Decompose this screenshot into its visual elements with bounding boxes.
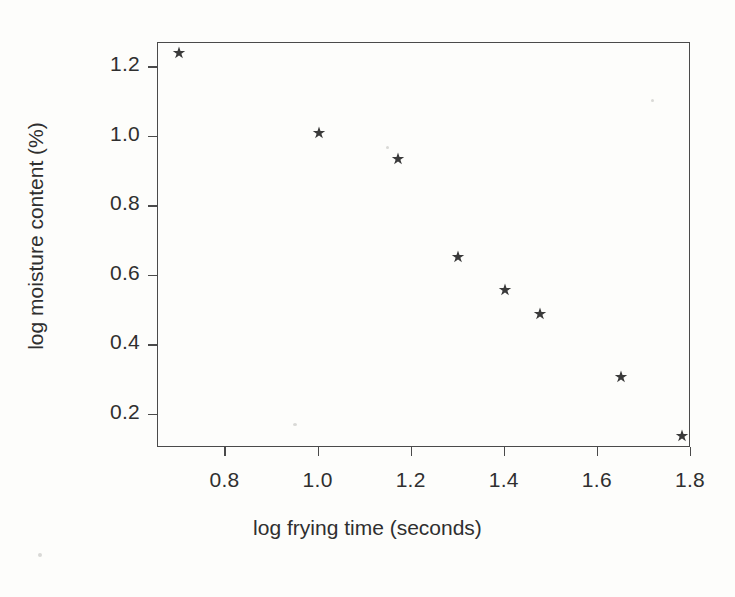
plot-area (157, 42, 690, 447)
y-tick-label: 0.8 (52, 191, 140, 215)
y-tick-label: 0.2 (52, 400, 140, 424)
data-point (451, 250, 465, 264)
x-tick-mark (318, 447, 319, 456)
y-tick-mark (148, 205, 157, 206)
y-tick-mark (148, 275, 157, 276)
data-points-layer (158, 43, 689, 446)
x-axis-title: log frying time (seconds) (0, 516, 735, 540)
x-tick-label: 1.8 (655, 468, 725, 492)
data-point (675, 429, 689, 443)
y-tick-mark (148, 136, 157, 137)
data-point (614, 370, 628, 384)
x-tick-label: 1.4 (469, 468, 539, 492)
data-point (172, 46, 186, 60)
y-axis-title: log moisture content (%) (24, 76, 48, 396)
y-tick-label: 1.0 (52, 122, 140, 146)
x-tick-mark (411, 447, 412, 456)
x-tick-label: 0.8 (189, 468, 259, 492)
x-tick-label: 1.6 (562, 468, 632, 492)
data-point (498, 283, 512, 297)
x-tick-mark (224, 447, 225, 456)
data-point (312, 126, 326, 140)
x-tick-mark (597, 447, 598, 456)
x-tick-mark (690, 447, 691, 456)
x-tick-mark (504, 447, 505, 456)
x-tick-label: 1.0 (283, 468, 353, 492)
y-tick-mark (148, 66, 157, 67)
scan-speckle (38, 553, 42, 557)
y-tick-label: 1.2 (52, 52, 140, 76)
scatter-plot-figure: 0.81.01.21.41.61.8 1.21.00.80.60.40.2 lo… (0, 0, 735, 597)
y-tick-mark (148, 344, 157, 345)
x-tick-label: 1.2 (376, 468, 446, 492)
y-tick-mark (148, 414, 157, 415)
y-tick-label: 0.6 (52, 261, 140, 285)
y-tick-label: 0.4 (52, 330, 140, 354)
data-point (533, 307, 547, 321)
data-point (391, 152, 405, 166)
